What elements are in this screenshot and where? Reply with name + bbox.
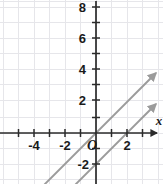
y-tick-label-2: 2 (79, 93, 86, 108)
origin-label: O (87, 138, 97, 153)
x-tick-label-2: 2 (123, 138, 130, 153)
x-tick-label-neg2: -2 (59, 138, 71, 153)
chart-canvas: 8 6 4 2 -2 -4 -2 2 O x (0, 0, 163, 184)
y-tick-label-neg2: -2 (77, 157, 89, 172)
y-tick-label-4: 4 (79, 62, 87, 77)
y-tick-label-6: 6 (79, 31, 86, 46)
coordinate-plane-chart: 8 6 4 2 -2 -4 -2 2 O x (0, 0, 163, 184)
x-tick-label-neg4: -4 (28, 138, 40, 153)
x-axis-label: x (155, 113, 163, 128)
y-tick-label-8: 8 (79, 0, 86, 15)
